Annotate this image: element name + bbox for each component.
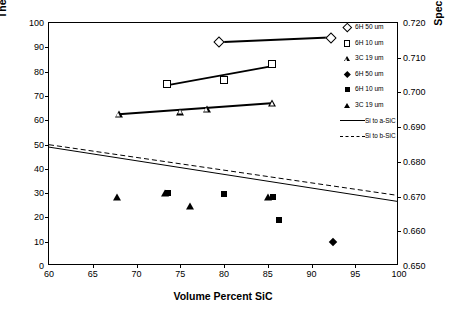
data-point (268, 60, 276, 68)
legend-item[interactable]: 6H 10 um (339, 36, 405, 52)
legend-symbol (339, 54, 355, 63)
data-point (264, 194, 272, 201)
x-axis-tick-label: 75 (175, 269, 185, 279)
y-axis-right-tick-mark (397, 162, 401, 163)
y-axis-left-tick-mark (45, 193, 49, 194)
y-axis-right-title: Specific Heat (J/g K) (432, 0, 444, 70)
y-axis-left-tick-label: 20 (34, 212, 44, 222)
y-axis-right-tick-mark (397, 231, 401, 232)
legend-symbol (339, 70, 355, 79)
legend-label: 6H 10 um (355, 40, 384, 47)
dashed-line-icon (340, 136, 365, 137)
y-axis-left-tick-mark (45, 217, 49, 218)
legend-symbol (339, 39, 355, 48)
data-point (186, 203, 194, 210)
x-axis-tick-label: 65 (88, 269, 98, 279)
y-axis-left-tick-mark (45, 47, 49, 48)
y-axis-left-tick-mark (45, 96, 49, 97)
data-point (213, 37, 224, 48)
y-axis-left-tick-mark (45, 120, 49, 121)
legend-label: Si to b-SiC (365, 133, 396, 139)
y-axis-left-tick-label: 50 (34, 140, 44, 150)
y-axis-left-tick-mark (45, 145, 49, 146)
data-point (221, 191, 227, 197)
x-axis-title: Volume Percent SiC (48, 290, 398, 302)
x-axis-tick-mark (180, 264, 181, 268)
data-point (163, 80, 171, 88)
x-axis-tick-label: 85 (263, 269, 273, 279)
legend-item[interactable]: 6H 10 um (339, 82, 405, 98)
legend-label: 3C 19 um (355, 102, 384, 109)
data-point (115, 111, 123, 118)
x-axis-tick-label: 70 (131, 269, 141, 279)
legend-symbol (339, 23, 355, 32)
filled-diamond-icon (344, 71, 350, 77)
data-point (329, 237, 337, 245)
data-point (325, 32, 336, 43)
legend-item[interactable]: 6H 50 um (339, 67, 405, 83)
y-axis-left-tick-label: 80 (34, 67, 44, 77)
x-axis-tick-label: 95 (350, 269, 360, 279)
x-axis-tick-label: 80 (219, 269, 229, 279)
open-square-icon (344, 40, 351, 47)
legend-item[interactable]: Si to a-SiC (339, 113, 405, 129)
y-axis-left-title: Thermal Diffusivity (mm^2/s) (0, 0, 8, 45)
data-point (176, 108, 184, 115)
y-axis-right-tick-mark (397, 197, 401, 198)
legend-item[interactable]: 6H 50 um (339, 20, 405, 36)
y-axis-right-tick-label: 0.680 (403, 157, 426, 167)
x-axis-tick-label: 60 (44, 269, 54, 279)
legend-symbol (339, 132, 365, 141)
open-triangle-icon (344, 56, 350, 61)
y-axis-left-tick-label: 10 (34, 237, 44, 247)
y-axis-left-tick-mark (45, 242, 49, 243)
trend-line (166, 66, 270, 85)
filled-square-icon (345, 87, 350, 92)
trend-line (218, 37, 329, 42)
figure: Thermal Diffusivity (mm^2/s) Specific He… (0, 0, 450, 310)
legend-label: 6H 50 um (355, 24, 384, 31)
data-point (161, 190, 169, 197)
y-axis-left-tick-label: 90 (34, 42, 44, 52)
y-axis-left-tick-label: 100 (29, 18, 44, 28)
legend-label: Si to a-SiC (365, 118, 396, 124)
legend-item[interactable]: Si to b-SiC (339, 129, 405, 145)
x-axis-tick-mark (224, 264, 225, 268)
x-axis-tick-label: 90 (306, 269, 316, 279)
data-point (203, 106, 211, 113)
y-axis-left-tick-label: 60 (34, 115, 44, 125)
x-axis-tick-mark (355, 264, 356, 268)
y-axis-right-tick-label: 0.700 (403, 87, 426, 97)
reference-line-si-to-b-sic (49, 145, 397, 196)
trend-line (119, 103, 271, 114)
x-axis-tick-mark (137, 264, 138, 268)
filled-triangle-icon (344, 103, 350, 108)
legend-symbol (339, 85, 355, 94)
legend-item[interactable]: 3C 19 um (339, 51, 405, 67)
legend: 6H 50 um6H 10 um3C 19 um6H 50 um6H 10 um… (339, 20, 405, 144)
legend-item[interactable]: 3C 19 um (339, 98, 405, 114)
solid-line-icon (340, 120, 365, 121)
data-point (113, 193, 121, 200)
y-axis-right-tick-label: 0.710 (403, 53, 426, 63)
x-axis-tick-label: 100 (391, 269, 406, 279)
open-diamond-icon (342, 23, 351, 32)
legend-label: 6H 50 um (355, 71, 384, 78)
y-axis-right-tick-label: 0.720 (403, 18, 426, 28)
x-axis-tick-mark (268, 264, 269, 268)
y-axis-right-tick-label: 0.690 (403, 122, 426, 132)
data-point (220, 76, 228, 84)
legend-label: 3C 19 um (355, 55, 384, 62)
y-axis-left-tick-mark (45, 169, 49, 170)
x-axis-tick-mark (93, 264, 94, 268)
data-point (276, 217, 282, 223)
y-axis-left-tick-label: 40 (34, 164, 44, 174)
y-axis-left-tick-label: 30 (34, 188, 44, 198)
y-axis-right-tick-label: 0.670 (403, 192, 426, 202)
y-axis-left-tick-mark (45, 72, 49, 73)
data-point (268, 100, 276, 107)
y-axis-right-tick-label: 0.660 (403, 226, 426, 236)
x-axis-tick-mark (312, 264, 313, 268)
legend-symbol (339, 116, 365, 125)
legend-label: 6H 10 um (355, 86, 384, 93)
